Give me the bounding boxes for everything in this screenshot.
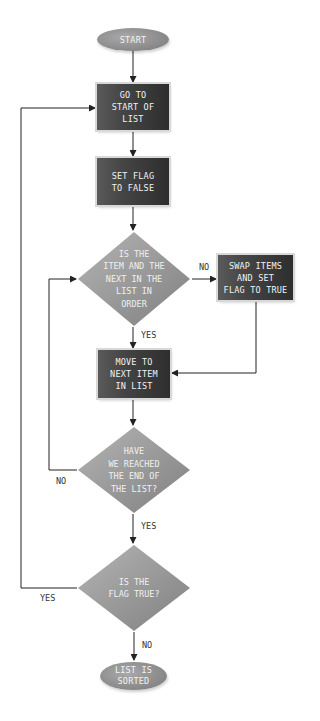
decision-flag-true-text: IS THE FLAG TRUE? xyxy=(78,545,190,631)
edge-label-in-order-yes: YES xyxy=(141,330,156,340)
process-move-next: MOVE TO NEXT ITEM IN LIST xyxy=(98,350,170,398)
edge-label-in-order-no: NO xyxy=(199,262,209,272)
end-terminal-sorted: LIST IS SORTED xyxy=(100,662,167,690)
process-go-to-start: GO TO START OF LIST xyxy=(97,84,169,130)
start-terminal: START xyxy=(97,28,169,51)
edge-label-reached-end-no: NO xyxy=(56,476,66,486)
decision-in-order-text: IS THE ITEM AND THE NEXT IN THE LIST IN … xyxy=(78,232,190,326)
process-swap-items: SWAP ITEMS AND SET FLAG TO TRUE xyxy=(218,255,293,300)
edge-label-reached-end-yes: YES xyxy=(141,521,156,531)
edge-label-flag-true-no: NO xyxy=(142,640,152,650)
edge-label-flag-true-yes: YES xyxy=(40,593,55,603)
decision-reached-end-text: HAVE WE REACHED THE END OF THE LIST? xyxy=(78,427,190,513)
process-set-flag-false: SET FLAG TO FALSE xyxy=(97,158,169,205)
